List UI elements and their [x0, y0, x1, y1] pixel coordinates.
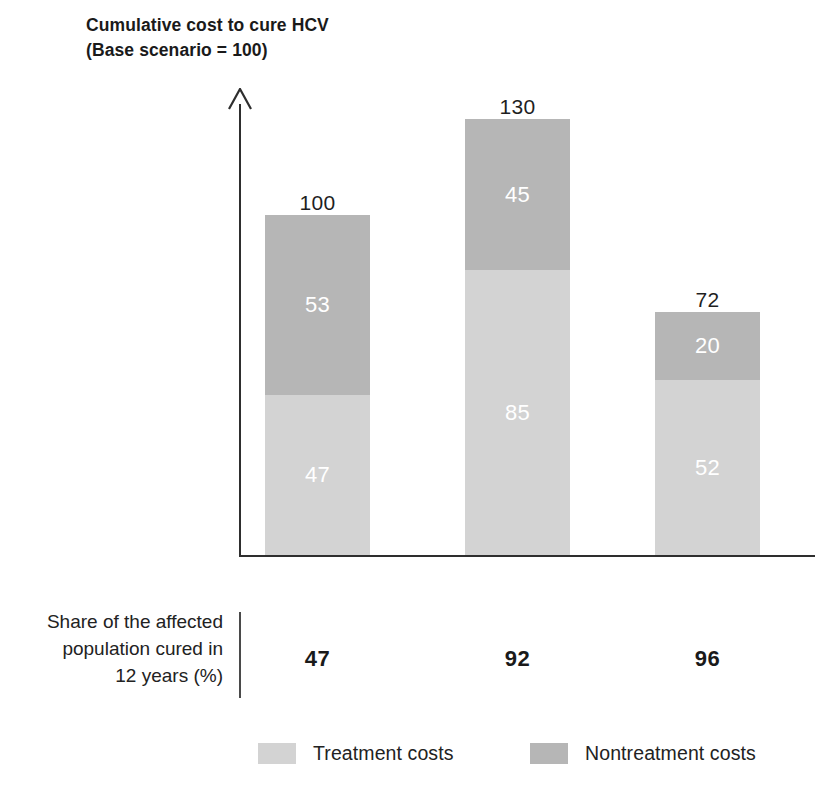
- bar-stack[interactable]: 53 47: [265, 215, 370, 555]
- bar-segment-nontreatment[interactable]: 45: [465, 119, 570, 270]
- treatment-costs-swatch: [258, 743, 296, 764]
- annotation-value-base-scenario: 47: [265, 646, 370, 672]
- legend-item-treatment-costs[interactable]: Treatment costs: [258, 742, 454, 765]
- bar-segment-value: 53: [305, 294, 330, 316]
- bar-segment-nontreatment[interactable]: 20: [655, 312, 760, 380]
- annotation-value-pla-scenario: 96: [655, 646, 760, 672]
- chart-page: Cumulative cost to cure HCV (Base scenar…: [0, 0, 840, 801]
- bar-total-label: 130: [465, 95, 570, 119]
- y-axis-line: [239, 104, 241, 556]
- y-axis-arrow-icon: [228, 88, 252, 110]
- bar-segment-treatment[interactable]: 47: [265, 395, 370, 555]
- bar-stack[interactable]: 20 52: [655, 312, 760, 555]
- x-axis-line: [239, 555, 815, 557]
- bar-segment-treatment[interactable]: 85: [465, 270, 570, 555]
- bar-total-label: 72: [655, 288, 760, 312]
- bar-total-label: 100: [265, 191, 370, 215]
- annotation-value-who-scenario: 92: [465, 646, 570, 672]
- annotation-row: Share of the affected population cured i…: [0, 604, 840, 704]
- legend-label: Treatment costs: [313, 742, 454, 765]
- chart-legend: Treatment costs Nontreatment costs: [0, 742, 840, 782]
- bar-stack[interactable]: 45 85: [465, 119, 570, 555]
- bar-segment-nontreatment[interactable]: 53: [265, 215, 370, 395]
- annotation-divider: [239, 612, 241, 698]
- annotation-row-label: Share of the affected population cured i…: [8, 608, 223, 689]
- legend-item-nontreatment-costs[interactable]: Nontreatment costs: [530, 742, 756, 765]
- bar-segment-value: 47: [305, 464, 330, 486]
- annotation-label-line-1: Share of the affected: [8, 608, 223, 635]
- plot-area: 100 53 47 Base scenario 130 45 85: [0, 0, 840, 600]
- bar-segment-value: 20: [695, 335, 720, 357]
- legend-label: Nontreatment costs: [585, 742, 756, 765]
- bar-segment-value: 45: [505, 184, 530, 206]
- bar-segment-value: 52: [695, 457, 720, 479]
- bar-segment-treatment[interactable]: 52: [655, 380, 760, 555]
- annotation-label-line-3: 12 years (%): [8, 662, 223, 689]
- bar-segment-value: 85: [505, 402, 530, 424]
- nontreatment-costs-swatch: [530, 743, 568, 764]
- annotation-label-line-2: population cured in: [8, 635, 223, 662]
